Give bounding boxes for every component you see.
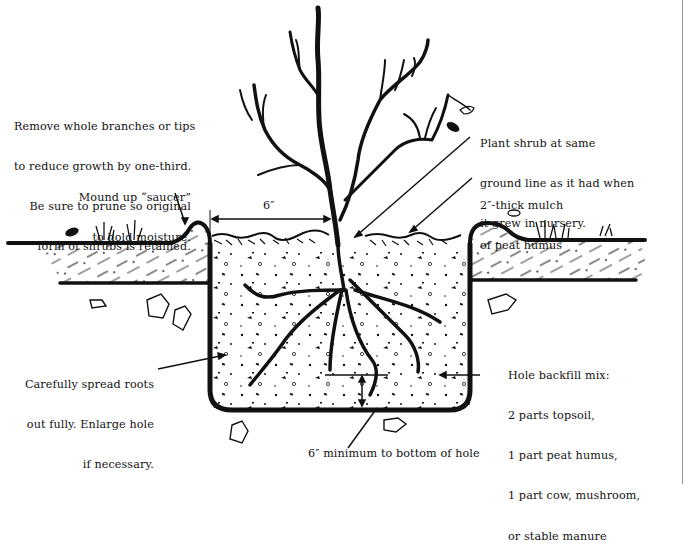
backfill-line-4: 1 part cow, mushroom,	[508, 489, 640, 502]
mulch-layer	[212, 231, 470, 248]
dimension-label-6in: 6″	[263, 199, 275, 212]
backfill-line-2: 2 parts topsoil,	[508, 409, 640, 422]
roots-annotation: Carefully spread roots out fully. Enlarg…	[10, 351, 154, 498]
prune-line-1: Remove whole branches or tips	[14, 120, 191, 133]
mulch-annotation: 2″-thick mulch of peat humus	[480, 172, 563, 279]
page-edge-line	[682, 0, 683, 484]
roots-line-2: out fully. Enlarge hole	[10, 418, 154, 431]
mulch-line-2: of peat humus	[480, 239, 563, 252]
mulch-line-1: 2″-thick mulch	[480, 199, 563, 212]
bottom-depth-annotation: 6″ minimum to bottom of hole	[308, 447, 480, 460]
ground-line-text-1: Plant shrub at same	[480, 137, 634, 150]
saucer-annotation: Mound up “saucer” to hold moisture.	[60, 164, 191, 271]
saucer-line-1: Mound up “saucer”	[60, 191, 191, 204]
backfill-line-3: 1 part peat humus,	[508, 449, 640, 462]
roots-line-1: Carefully spread roots	[10, 378, 154, 391]
backfill-line-1: Hole backfill mix:	[508, 369, 640, 382]
backfill-line-5: or stable manure	[508, 530, 640, 543]
backfill-annotation: Hole backfill mix: 2 parts topsoil, 1 pa…	[508, 342, 640, 544]
saucer-line-2: to hold moisture.	[60, 231, 191, 244]
roots-line-3: if necessary.	[10, 458, 154, 471]
